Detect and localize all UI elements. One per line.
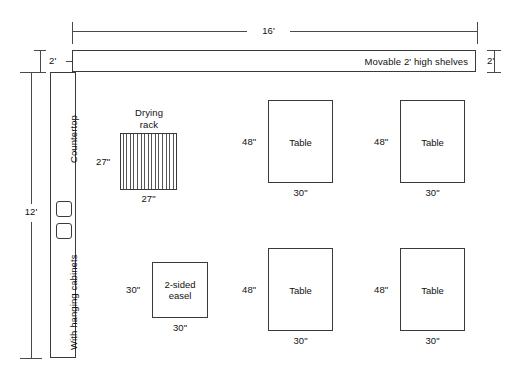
dim-12ft-bottom-tick bbox=[20, 358, 42, 359]
drying-rack-slat bbox=[166, 134, 167, 189]
movable-shelves[interactable]: Movable 2' high shelves bbox=[72, 50, 476, 72]
table-bottom-center-width-label: 30" bbox=[268, 335, 333, 346]
table-top-right-width-label: 30" bbox=[400, 187, 465, 198]
drying-rack-label-line1: Drying bbox=[113, 107, 185, 118]
countertop-with-cabinets[interactable]: Countertop With hanging cabinets bbox=[50, 72, 76, 358]
movable-shelves-label: Movable 2' high shelves bbox=[365, 56, 468, 67]
drying-rack-slat bbox=[162, 134, 163, 189]
table-bottom-right-height-label: 48" bbox=[374, 284, 388, 295]
table-top-right-label: Table bbox=[401, 136, 464, 147]
drying-rack-slat bbox=[123, 134, 124, 189]
sink-upper[interactable] bbox=[56, 201, 72, 217]
dim-2ft-left-line bbox=[40, 50, 41, 72]
dim-16ft-left-tick bbox=[72, 22, 73, 44]
drying-rack-slats bbox=[121, 134, 176, 189]
floor-plan-diagram: 16' 2' 2' 12' Movable 2' high shelves Co… bbox=[0, 0, 521, 378]
easel-bottom-left[interactable]: 2-sided easel bbox=[152, 262, 208, 318]
table-top-left-label: Table bbox=[269, 136, 332, 147]
table-bottom-right-width-label: 30" bbox=[400, 335, 465, 346]
drying-rack-slat bbox=[133, 134, 134, 189]
table-top-right-height-label: 48" bbox=[374, 136, 388, 147]
drying-rack[interactable] bbox=[120, 133, 177, 190]
dim-16ft-label: 16' bbox=[247, 25, 290, 36]
drying-rack-slat bbox=[173, 134, 174, 189]
drying-rack-slat bbox=[141, 134, 142, 189]
drying-rack-slat bbox=[130, 134, 131, 189]
dim-16ft-line-right bbox=[290, 31, 477, 32]
dim-2ft-right-lower-tick bbox=[487, 72, 501, 73]
drying-rack-slat bbox=[176, 134, 177, 189]
countertop-label: Countertop bbox=[68, 115, 79, 163]
sink-lower[interactable] bbox=[56, 223, 72, 239]
table-bottom-center[interactable]: Table bbox=[268, 248, 333, 331]
drying-rack-slat bbox=[155, 134, 156, 189]
dim-12ft-line-upper bbox=[31, 72, 32, 204]
drying-rack-slat bbox=[126, 134, 127, 189]
easel-bottom-left-height-label: 30" bbox=[126, 284, 140, 295]
table-top-left-width-label: 30" bbox=[268, 187, 333, 198]
drying-rack-label-line2: rack bbox=[113, 119, 185, 130]
dim-2ft-left-label: 2' bbox=[49, 55, 56, 66]
table-top-left[interactable]: Table bbox=[268, 100, 333, 183]
table-bottom-center-height-label: 48" bbox=[242, 284, 256, 295]
table-top-right[interactable]: Table bbox=[400, 100, 465, 183]
table-top-left-height-label: 48" bbox=[242, 136, 256, 147]
table-bottom-right[interactable]: Table bbox=[400, 248, 465, 331]
dim-12ft-label: 12' bbox=[17, 206, 45, 217]
drying-rack-slat bbox=[169, 134, 170, 189]
easel-bottom-left-label: 2-sided easel bbox=[153, 279, 207, 301]
drying-rack-slat bbox=[151, 134, 152, 189]
drying-rack-slat bbox=[144, 134, 145, 189]
drying-rack-height-label: 27" bbox=[96, 156, 110, 167]
dim-16ft-right-tick bbox=[477, 22, 478, 44]
drying-rack-slat bbox=[158, 134, 159, 189]
drying-rack-slat bbox=[148, 134, 149, 189]
drying-rack-slat bbox=[137, 134, 138, 189]
hanging-cabinets-label: With hanging cabinets bbox=[68, 254, 79, 350]
easel-bottom-left-width-label: 30" bbox=[152, 322, 208, 333]
dim-16ft-line-left bbox=[72, 31, 247, 32]
table-bottom-right-label: Table bbox=[401, 284, 464, 295]
dim-2ft-right-label: 2' bbox=[487, 55, 494, 66]
dim-12ft-line-lower bbox=[31, 222, 32, 358]
drying-rack-width-label: 27" bbox=[120, 193, 177, 204]
table-bottom-center-label: Table bbox=[269, 284, 332, 295]
